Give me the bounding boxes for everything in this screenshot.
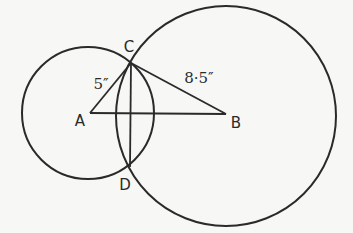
segment-ab <box>90 113 226 114</box>
point-label-d: D <box>119 178 131 193</box>
construction-figure <box>0 0 353 233</box>
point-label-b: B <box>231 116 241 131</box>
diagram-canvas: C A B D 5″ 8·5″ <box>0 0 353 233</box>
point-label-c: C <box>124 40 134 55</box>
circle-centered-b <box>116 6 336 226</box>
segment-cd-common-chord <box>130 63 131 167</box>
point-label-a: A <box>75 114 85 129</box>
measurement-bc: 8·5″ <box>184 71 213 86</box>
measurement-ac: 5″ <box>93 77 108 92</box>
